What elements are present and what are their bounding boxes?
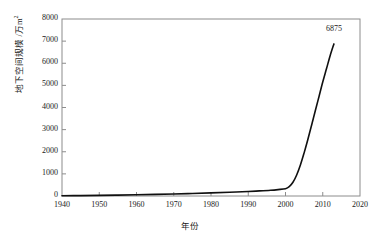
y-tick-label: 1000 [16, 168, 58, 177]
y-tick-label: 0 [16, 190, 58, 199]
y-tick-label: 6000 [16, 57, 58, 66]
x-tick-label: 1960 [117, 200, 157, 209]
y-tick-label: 8000 [16, 13, 58, 22]
x-tick-label: 2020 [340, 200, 379, 209]
chart-figure: 地下空间规模 /万m2 年份 1940195019601970198019902… [0, 0, 379, 246]
x-tick-label: 1940 [42, 200, 82, 209]
x-tick-label: 1970 [154, 200, 194, 209]
x-tick-label: 2000 [266, 200, 306, 209]
series-line-underground-space [62, 44, 334, 196]
y-tick-label: 2000 [16, 146, 58, 155]
x-axis-title: 年份 [0, 219, 379, 231]
x-tick-label: 1980 [191, 200, 231, 209]
y-axis-ticks [62, 41, 66, 174]
plot-frame-rect [62, 19, 360, 196]
plot-frame [62, 19, 360, 196]
x-tick-label: 1950 [79, 200, 119, 209]
y-tick-label: 4000 [16, 102, 58, 111]
x-tick-label: 1990 [228, 200, 268, 209]
data-point-annotation: 6875 [326, 24, 342, 33]
y-tick-label: 7000 [16, 35, 58, 44]
y-tick-label: 3000 [16, 124, 58, 133]
y-tick-label: 5000 [16, 79, 58, 88]
x-tick-label: 2010 [303, 200, 343, 209]
data-series-group [62, 44, 334, 196]
